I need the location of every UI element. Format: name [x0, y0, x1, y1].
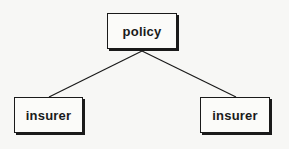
node-insurer-right: insurer [200, 97, 270, 133]
node-label: insurer [212, 108, 257, 123]
edge-policy-insurer-left [49, 51, 142, 97]
node-insurer-left: insurer [14, 97, 83, 133]
diagram-canvas: policy insurer insurer [0, 0, 289, 149]
node-label: insurer [26, 108, 71, 123]
node-policy: policy [107, 13, 177, 49]
edge-policy-insurer-right [142, 51, 236, 97]
node-label: policy [123, 24, 162, 39]
